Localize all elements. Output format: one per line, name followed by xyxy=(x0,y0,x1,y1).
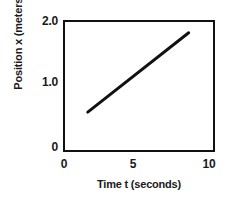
y-tick-label-2: 2.0 xyxy=(24,14,58,28)
x-tick-label-5: 5 xyxy=(113,156,153,172)
x-tick-label-10: 10 xyxy=(189,156,229,172)
y-axis-tick-labels: 2.0 1.0 0 xyxy=(22,0,58,203)
position-data-line xyxy=(88,33,189,112)
plot-area xyxy=(63,20,215,152)
x-axis-tick-labels: 0 5 10 xyxy=(0,156,232,172)
x-axis-title: Time t (seconds) xyxy=(45,178,232,190)
plot-svg xyxy=(65,22,213,150)
y-tick-label-1: 1.0 xyxy=(24,75,58,89)
position-time-chart: Position x (meters) 2.0 1.0 0 0 5 10 Tim… xyxy=(0,0,232,203)
x-tick-label-0: 0 xyxy=(44,156,84,172)
y-tick-label-0: 0 xyxy=(24,140,58,154)
